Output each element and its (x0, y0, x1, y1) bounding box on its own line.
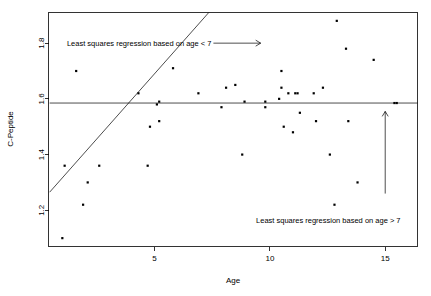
annotation-texts: Least squares regression based on age < … (67, 39, 401, 225)
data-point (75, 70, 77, 72)
data-point (61, 237, 63, 239)
data-point (278, 98, 280, 100)
annotation-age-gt-7: Least squares regression based on age > … (256, 216, 400, 225)
data-point (264, 106, 266, 108)
plot-canvas: 1.21.41.61.8 51015 Least squares regress… (0, 0, 431, 296)
data-point (149, 126, 151, 128)
data-point (283, 126, 285, 128)
data-point (243, 101, 245, 103)
data-point (347, 120, 349, 122)
data-point (313, 92, 315, 94)
y-tick-label: 1.4 (37, 148, 46, 160)
data-point (234, 84, 236, 86)
data-point (220, 106, 222, 108)
x-tick-label: 5 (152, 254, 157, 263)
x-axis-title: Age (226, 276, 241, 285)
data-points (61, 20, 398, 239)
data-point (137, 92, 139, 94)
data-point (172, 67, 174, 69)
data-point (315, 120, 317, 122)
data-point (156, 103, 158, 105)
y-axis-title: C-Peptide (6, 111, 15, 147)
data-point (322, 87, 324, 89)
data-point (356, 181, 358, 183)
y-tick-label: 1.8 (37, 37, 46, 49)
data-point (296, 92, 298, 94)
data-point (264, 101, 266, 103)
data-point (225, 87, 227, 89)
data-point (280, 87, 282, 89)
annotation-age-lt-7: Least squares regression based on age < … (67, 39, 211, 48)
y-tick-label: 1.6 (37, 93, 46, 105)
y-tick-label: 1.2 (37, 204, 46, 216)
data-point (345, 48, 347, 50)
data-point (299, 112, 301, 114)
data-point (336, 20, 338, 22)
data-point (158, 101, 160, 103)
data-point (98, 165, 100, 167)
data-point (292, 131, 294, 133)
data-point (147, 165, 149, 167)
data-point (396, 102, 398, 104)
x-tick-label: 10 (265, 254, 274, 263)
data-point (329, 153, 331, 155)
data-point (393, 102, 395, 104)
data-point (294, 92, 296, 94)
data-point (197, 92, 199, 94)
data-point (64, 165, 66, 167)
data-point (333, 204, 335, 206)
data-point (158, 120, 160, 122)
y-axis-ticks: 1.21.41.61.8 (37, 37, 49, 216)
x-axis-ticks: 51015 (152, 247, 390, 263)
data-point (280, 70, 282, 72)
data-point (87, 181, 89, 183)
data-point (82, 204, 84, 206)
x-tick-label: 15 (381, 254, 390, 263)
annotation-arrows (213, 40, 388, 193)
data-point (287, 92, 289, 94)
scatter-plot-figure: 1.21.41.61.8 51015 Least squares regress… (0, 0, 431, 296)
data-point (373, 59, 375, 61)
data-point (241, 153, 243, 155)
